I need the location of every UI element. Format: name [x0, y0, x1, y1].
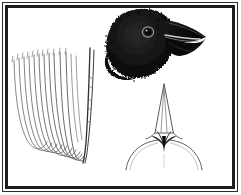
illustration-plate	[0, 0, 241, 195]
head-mass	[105, 9, 175, 80]
bill	[165, 20, 206, 56]
figure-wing-primaries	[6, 42, 98, 168]
wing-feather-group	[12, 48, 94, 163]
figure-head-profile	[96, 6, 212, 84]
figure-culmen-dorsal	[118, 78, 210, 170]
outer-primary	[83, 48, 90, 163]
